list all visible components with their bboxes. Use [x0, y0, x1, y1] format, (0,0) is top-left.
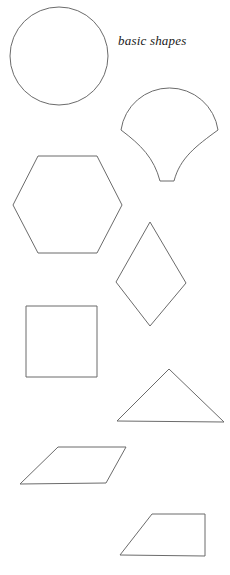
- shape-triangle: [117, 369, 224, 422]
- shape-circle: [10, 7, 108, 105]
- shape-trapezoid: [120, 514, 205, 556]
- shape-parallelogram: [20, 447, 126, 484]
- shape-square: [26, 306, 97, 377]
- page-title: basic shapes: [118, 33, 186, 49]
- shapes-illustration: [0, 0, 230, 575]
- shape-fan: [121, 88, 218, 181]
- shape-rhombus: [116, 222, 186, 326]
- drawing-canvas: basic shapes: [0, 0, 230, 575]
- shape-hexagon: [13, 156, 122, 253]
